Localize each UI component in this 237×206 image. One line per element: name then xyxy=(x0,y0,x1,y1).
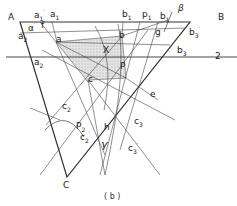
label-c3-prime: c3′ xyxy=(128,142,138,155)
label-h: h xyxy=(104,123,110,132)
label-b: b xyxy=(119,31,125,40)
figure-b: A B C a1′ a1 α′ f a2′ a a2 b1 p1 b1′ β b… xyxy=(0,0,237,206)
label-X: X xyxy=(103,46,109,55)
label-c: c xyxy=(88,75,93,84)
label-C: C xyxy=(63,181,69,190)
label-gamma: γ xyxy=(101,139,108,150)
label-e: e xyxy=(150,90,156,99)
label-a1: a1 xyxy=(50,10,59,21)
label-f: f xyxy=(41,21,44,30)
label-c3: c3 xyxy=(134,117,143,128)
label-g: g xyxy=(155,28,161,37)
label-c2-prime: c2′ xyxy=(80,131,90,144)
label-a2-prime: a2′ xyxy=(18,30,29,43)
label-a: a xyxy=(56,35,62,44)
label-P: P xyxy=(120,62,125,71)
construction-lines xyxy=(20,20,186,175)
label-b1: b1 xyxy=(122,10,132,21)
label-B: B xyxy=(218,13,224,22)
label-a2: a2 xyxy=(34,58,43,69)
label-line-2: 2 xyxy=(215,52,221,61)
figure-caption: ( b ) xyxy=(104,192,120,201)
label-b3-prime: b3′ xyxy=(189,26,200,39)
label-alpha: α′ xyxy=(28,22,35,33)
label-b1-prime: b1′ xyxy=(160,10,171,23)
label-beta: β xyxy=(178,4,184,13)
label-p1: p1 xyxy=(142,10,152,21)
label-A: A xyxy=(8,13,14,22)
label-c2: c2 xyxy=(62,102,71,113)
label-b3: b3 xyxy=(177,46,187,57)
